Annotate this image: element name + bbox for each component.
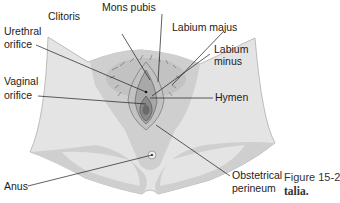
- label-hymen: Hymen: [215, 92, 248, 103]
- label-clitoris: Clitoris: [48, 11, 80, 22]
- label-obstetrical-perineum-line1: Obstetrical: [232, 170, 282, 181]
- label-mons-pubis: Mons pubis: [102, 2, 156, 13]
- label-labium-minus-line2: minus: [214, 56, 242, 67]
- label-obstetrical-perineum-line2: perineum: [232, 183, 276, 194]
- label-vaginal-orifice-line1: Vaginal: [4, 76, 38, 87]
- label-anus: Anus: [4, 181, 28, 192]
- label-vaginal-orifice-line2: orifice: [4, 90, 32, 101]
- label-urethral-orifice-line2: orifice: [4, 39, 32, 50]
- figure-caption-fragment: talia.: [284, 185, 309, 198]
- label-labium-minus-line1: Labium: [214, 44, 248, 55]
- label-urethral-orifice-line1: Urethral: [4, 26, 41, 37]
- figure-number: Figure 15-2: [284, 171, 340, 184]
- label-labium-majus: Labium majus: [172, 22, 237, 33]
- hymen-shape: [143, 105, 150, 115]
